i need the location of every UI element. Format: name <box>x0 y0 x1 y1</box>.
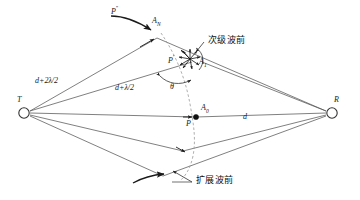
leader-secondary-wavefront <box>196 42 204 52</box>
label-path-one: d+λ/2 <box>115 84 134 92</box>
receiver-node <box>327 108 337 118</box>
fresnel-zone-diagram: P'' AN 次级波前 P' A1 d+2λ/2 d+λ/2 θ T R A0 … <box>0 0 360 200</box>
label-expanding-wavefront: 扩展波前 <box>196 176 233 185</box>
transmitter-node <box>19 108 29 118</box>
label-a-0: A0 <box>201 104 209 114</box>
ray-p-r <box>196 113 326 117</box>
ray-an-r <box>157 38 326 111</box>
label-secondary-wavefront: 次级波前 <box>208 36 245 45</box>
diagram-canvas <box>0 0 360 200</box>
top-wavefront-curve <box>111 16 151 30</box>
label-a-1: A1 <box>199 58 207 68</box>
bottom-wavefront-curve <box>133 174 164 183</box>
label-p-center: P <box>186 120 191 128</box>
ray-lower-inner-r <box>183 115 326 151</box>
label-path-direct: d <box>243 113 247 121</box>
label-transmitter: T <box>17 96 21 104</box>
ray-a1-r <box>202 62 326 111</box>
ray-paths-right-group <box>157 38 326 176</box>
arrow-into-an <box>140 39 154 47</box>
label-a-n: AN <box>152 17 161 27</box>
ray-t-lower-inner <box>30 115 183 151</box>
fresnel-wavefront-arc <box>161 33 194 181</box>
center-point-node <box>193 114 198 119</box>
ray-t-p <box>30 113 196 117</box>
label-angle-theta: θ <box>170 83 174 91</box>
label-p-prime: P' <box>168 54 174 65</box>
label-p-double-prime: P'' <box>111 5 118 16</box>
ray-t-a1 <box>30 62 192 111</box>
ray-t-an <box>30 38 157 111</box>
label-path-two: d+2λ/2 <box>35 77 58 85</box>
label-receiver: R <box>334 96 339 104</box>
ray-t-lower-outer <box>30 116 163 176</box>
angle-theta-arc <box>160 76 191 83</box>
leader-expanding-wavefront <box>173 171 192 182</box>
